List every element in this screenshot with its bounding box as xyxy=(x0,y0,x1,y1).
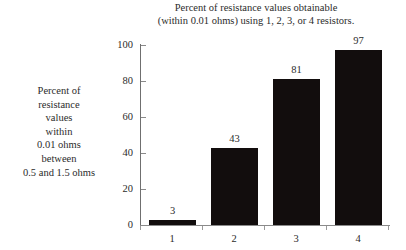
y-tick-80: 80 xyxy=(140,81,146,82)
x-axis-label-3: 3 xyxy=(293,233,298,245)
x-axis-label-1: 1 xyxy=(169,233,174,245)
plot-area: 0 20 40 60 80 100 3 xyxy=(140,45,390,225)
y-tick-20: 20 xyxy=(140,189,146,190)
y-axis-caption-line-7: 0.5 and 1.5 ohms xyxy=(2,166,116,180)
chart-title-line-1: Percent of resistance values obtainable xyxy=(108,1,404,14)
x-tick-boundary-4 xyxy=(388,226,389,230)
y-tick-label-40: 40 xyxy=(123,146,134,159)
y-tick-label-80: 80 xyxy=(123,74,134,87)
y-axis-line xyxy=(140,44,141,226)
bar-category-2: 43 xyxy=(211,148,258,225)
y-tick-60: 60 xyxy=(140,117,146,118)
y-axis-caption-line-6: between xyxy=(2,152,116,166)
bar-category-1: 3 xyxy=(149,220,196,225)
y-axis-caption-line-5: 0.01 ohms xyxy=(2,138,116,152)
y-axis-caption: Percent of resistance values within 0.01… xyxy=(2,84,116,179)
y-tick-40: 40 xyxy=(140,153,146,154)
bar-value-label-1: 3 xyxy=(170,205,175,217)
y-axis-caption-line-2: resistance xyxy=(2,98,116,112)
bar-value-label-4: 97 xyxy=(353,35,364,47)
bar-value-label-3: 81 xyxy=(291,64,302,76)
bar-value-label-2: 43 xyxy=(229,133,240,145)
x-tick-boundary-0 xyxy=(140,226,141,230)
x-tick-boundary-1 xyxy=(202,226,203,230)
bar-category-3: 81 xyxy=(273,79,320,225)
y-tick-label-100: 100 xyxy=(117,38,133,51)
bar-category-4: 97 xyxy=(335,50,382,225)
x-axis-label-2: 2 xyxy=(231,233,236,245)
x-tick-boundary-3 xyxy=(326,226,327,230)
x-tick-boundary-2 xyxy=(264,226,265,230)
y-tick-label-0: 0 xyxy=(128,218,133,231)
chart-title-line-2: (within 0.01 ohms) using 1, 2, 3, or 4 r… xyxy=(108,14,404,27)
x-axis-label-4: 4 xyxy=(355,233,360,245)
y-axis-caption-line-3: values xyxy=(2,111,116,125)
y-axis-caption-line-4: within xyxy=(2,125,116,139)
y-tick-label-20: 20 xyxy=(123,182,134,195)
y-tick-label-60: 60 xyxy=(123,110,134,123)
chart-figure: Percent of resistance values obtainable … xyxy=(0,0,406,250)
y-tick-100: 100 xyxy=(140,45,146,46)
x-axis-line xyxy=(140,225,390,226)
chart-title: Percent of resistance values obtainable … xyxy=(108,1,404,27)
y-axis-caption-line-1: Percent of xyxy=(2,84,116,98)
